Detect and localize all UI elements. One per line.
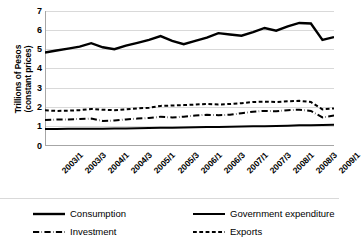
series-line xyxy=(45,110,334,121)
legend-label: Investment xyxy=(70,226,116,237)
x-axis-tick-label: 2006/3 xyxy=(221,150,246,175)
legend-label: Government expenditure xyxy=(230,208,335,219)
x-axis-tick-label: 2003/1 xyxy=(60,150,85,175)
y-axis-tick-label: 0 xyxy=(30,142,42,151)
y-axis-tick-label: 7 xyxy=(30,7,42,16)
legend-swatch-icon xyxy=(32,227,66,237)
y-axis-tick-label: 1 xyxy=(30,122,42,131)
legend-item-consumption[interactable]: Consumption xyxy=(32,208,126,219)
x-axis-tick-label: 2009/1 xyxy=(337,150,362,175)
legend-item-investment[interactable]: Investment xyxy=(32,226,116,237)
legend-swatch-icon xyxy=(192,227,226,237)
x-axis-tick-label: 2004/3 xyxy=(129,150,154,175)
x-axis-tick-label: 2007/3 xyxy=(268,150,293,175)
x-axis-tick-label: 2003/3 xyxy=(83,150,108,175)
legend-separator xyxy=(0,198,339,199)
chart-legend: ConsumptionGovernment expenditureInvestm… xyxy=(0,198,339,246)
plot-svg xyxy=(45,11,334,146)
x-axis-tick-label: 2008/1 xyxy=(291,150,316,175)
x-axis-tick-label: 2004/1 xyxy=(106,150,131,175)
y-axis-tick-label: 6 xyxy=(30,26,42,35)
legend-label: Exports xyxy=(230,226,262,237)
y-axis-title-line1: Trillions of Pesos xyxy=(13,45,24,114)
y-axis-tick-label: 4 xyxy=(30,64,42,73)
x-axis-tick-label: 2005/1 xyxy=(152,150,177,175)
x-axis-tick-label: 2006/1 xyxy=(198,150,223,175)
series-line xyxy=(45,23,334,53)
legend-item-exports[interactable]: Exports xyxy=(192,226,262,237)
x-axis-tick-label: 2007/1 xyxy=(245,150,270,175)
plot-area xyxy=(45,11,334,146)
legend-item-government-expenditure[interactable]: Government expenditure xyxy=(192,208,335,219)
y-axis-tick-label: 3 xyxy=(30,84,42,93)
x-axis-tick-label: 2005/3 xyxy=(175,150,200,175)
y-axis-tick-label: 5 xyxy=(30,45,42,54)
y-axis-tick-label: 2 xyxy=(30,103,42,112)
legend-swatch-icon xyxy=(32,209,66,219)
legend-swatch-icon xyxy=(192,209,226,219)
legend-label: Consumption xyxy=(70,208,126,219)
series-line xyxy=(45,101,334,111)
x-axis-ticks: 2003/12003/32004/12004/32005/12005/32006… xyxy=(45,146,334,196)
x-axis-tick-label: 2008/3 xyxy=(314,150,339,175)
